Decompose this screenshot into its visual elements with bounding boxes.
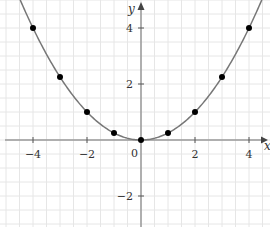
x-tick-label: 4 — [246, 148, 253, 161]
data-point — [246, 25, 252, 31]
data-point — [165, 130, 171, 136]
y-tick-label: 2 — [126, 78, 133, 91]
x-tick-label: 2 — [192, 148, 199, 161]
data-point — [138, 137, 144, 143]
grid-lines — [0, 0, 270, 227]
data-point — [219, 74, 225, 80]
origin-label: 0 — [131, 147, 138, 160]
x-tick-label: −4 — [25, 148, 41, 161]
data-point — [57, 74, 63, 80]
x-tick-label: −2 — [79, 148, 95, 161]
axes — [5, 2, 268, 227]
data-point — [84, 109, 90, 115]
y-tick-label: −2 — [117, 190, 133, 203]
data-point — [111, 130, 117, 136]
y-tick-label: 4 — [126, 22, 133, 35]
data-point — [30, 25, 36, 31]
x-axis-label: x — [264, 139, 270, 153]
data-point — [192, 109, 198, 115]
y-axis-arrow-icon — [138, 2, 145, 10]
y-axis-label: y — [127, 2, 135, 16]
parabola-chart: −4−224−224 y x 0 — [0, 0, 270, 227]
